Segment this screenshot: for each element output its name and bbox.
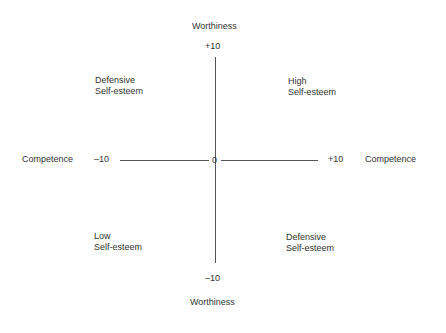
quadrant-top-right-label: High Self-esteem [288, 76, 336, 98]
horizontal-axis-line-left [120, 160, 209, 161]
y-axis-max-label: +10 [205, 41, 220, 52]
y-axis-min-label: –10 [205, 273, 220, 284]
quadrant-top-left-label: Defensive Self-esteem [95, 75, 143, 97]
horizontal-axis-line-right [221, 160, 318, 161]
x-axis-max-label: +10 [328, 154, 343, 165]
quadrant-bottom-left-label: Low Self-esteem [94, 231, 142, 253]
y-axis-title-bottom: Worthiness [190, 297, 235, 308]
quadrant-bottom-right-label: Defensive Self-esteem [286, 232, 334, 254]
x-axis-min-label: –10 [94, 154, 109, 165]
x-axis-title-right: Competence [365, 154, 416, 165]
y-axis-title-top: Worthiness [192, 21, 237, 32]
x-axis-title-left: Competence [22, 154, 73, 165]
origin-label: 0 [212, 155, 217, 166]
